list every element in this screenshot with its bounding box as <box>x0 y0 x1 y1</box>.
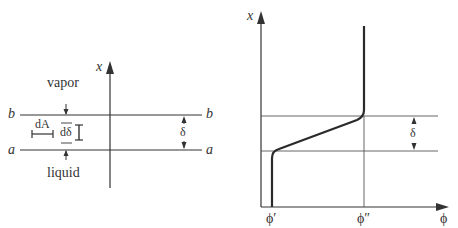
arrow-up-icon <box>412 117 417 124</box>
area-element-marker <box>32 130 53 138</box>
phi-vapor-label: ϕ″ <box>357 212 370 226</box>
left-axis-label: x <box>96 60 102 74</box>
area-element-label: dA <box>35 118 50 130</box>
thickness-element-label: dδ <box>60 126 72 138</box>
interface-a-label-right: a <box>206 143 213 157</box>
interface-thickness-label-right: δ <box>410 127 416 139</box>
liquid-region-label: liquid <box>47 166 80 180</box>
phi-axis-label: ϕ <box>440 212 447 226</box>
right-y-axis-arrowhead-icon <box>257 11 265 24</box>
right-panel <box>257 11 449 211</box>
right-y-axis-label: x <box>247 9 253 23</box>
interface-diagram <box>0 0 458 228</box>
left-x-axis-arrowhead-icon <box>106 61 114 74</box>
interface-b-label-left: b <box>8 107 15 121</box>
arrow-down-icon <box>64 109 69 115</box>
interface-thickness-label-left: δ <box>180 126 186 138</box>
interface-b-label-right: b <box>206 107 213 121</box>
interface-a-label-left: a <box>8 143 15 157</box>
right-phi-axis-arrowhead-icon <box>436 203 449 211</box>
vapor-region-label: vapor <box>47 76 79 90</box>
phi-profile-curve <box>272 26 364 207</box>
phi-liquid-label: ϕ′ <box>266 212 276 226</box>
arrow-down-icon <box>412 143 417 150</box>
arrow-up-icon <box>64 150 69 156</box>
arrow-down-icon <box>182 142 187 149</box>
